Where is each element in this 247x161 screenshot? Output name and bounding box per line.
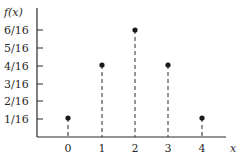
x-axis-title: x: [230, 142, 237, 155]
y-tick-label: 2/16: [4, 95, 29, 108]
data-point-x2: [132, 27, 137, 32]
y-tick-label: 4/16: [4, 60, 29, 73]
y-tick-label: 1/16: [4, 113, 29, 126]
x-tick-label: 3: [165, 142, 172, 155]
data-point-x3: [165, 62, 170, 67]
x-tick-labels: 0 1 2 3 4: [65, 142, 206, 155]
data-point-x0: [65, 115, 70, 120]
stems: [68, 30, 202, 137]
x-tick-label: 4: [199, 142, 206, 155]
y-tick-label: 5/16: [4, 42, 29, 55]
y-tick-label: 6/16: [4, 24, 29, 37]
data-point-x1: [99, 62, 104, 67]
y-tick-labels: 1/16 2/16 3/16 4/16 5/16 6/16: [4, 24, 29, 126]
x-tick-label: 1: [99, 142, 106, 155]
x-tick-label: 0: [65, 142, 72, 155]
stem-chart: f(x) 1/16 2/16 3/16 4/16 5/16 6/16: [0, 0, 247, 161]
y-ticks: [37, 30, 43, 119]
y-tick-label: 3/16: [4, 78, 29, 91]
data-point-x4: [199, 115, 204, 120]
x-tick-label: 2: [132, 142, 139, 155]
y-axis-title: f(x): [3, 6, 23, 19]
